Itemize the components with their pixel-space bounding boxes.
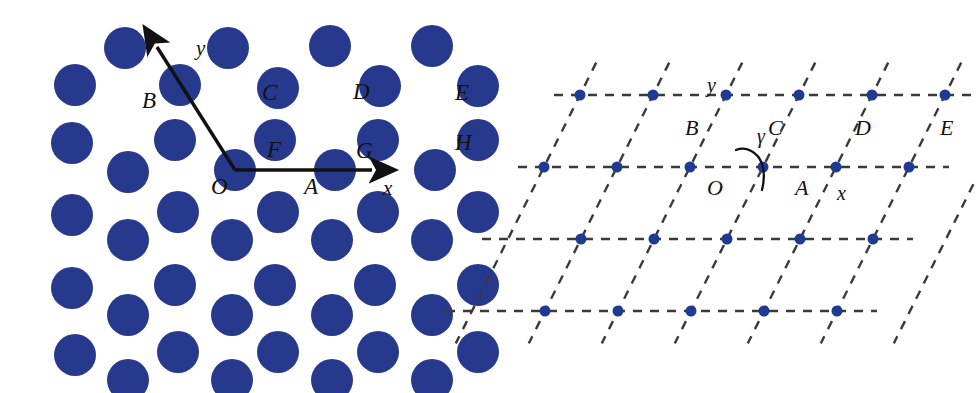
atom-circle — [107, 151, 149, 193]
atom-circle — [211, 294, 253, 336]
lattice-point — [868, 234, 879, 245]
lattice-line-oblique — [748, 63, 888, 344]
atom-circle — [157, 191, 199, 233]
left-label-e: E — [454, 80, 469, 105]
lattice-point — [576, 234, 587, 245]
atom-circle — [154, 119, 196, 161]
right-label-a: A — [793, 175, 809, 200]
atom-circle — [211, 219, 253, 261]
lattice-point — [612, 162, 623, 173]
lattice-point — [649, 234, 660, 245]
atom-circle — [51, 122, 93, 164]
left-label-f: F — [266, 137, 282, 162]
lattice-point — [867, 90, 878, 101]
atom-circle — [457, 191, 499, 233]
right-label-b: B — [685, 115, 698, 140]
atom-circle — [54, 334, 96, 376]
right-label-c: C — [768, 115, 783, 140]
lattice-point — [613, 306, 624, 317]
atom-circle — [311, 294, 353, 336]
atom-circle — [411, 359, 453, 393]
atom-circle — [211, 359, 253, 393]
right-panel-oblique-lattice: BCDEOAxyγ — [540, 0, 976, 393]
lattice-point — [795, 234, 806, 245]
atom-circle — [411, 25, 453, 67]
lattice-point — [648, 90, 659, 101]
left-label-g: G — [356, 138, 373, 163]
atom-circle — [414, 149, 456, 191]
atom-circle — [457, 331, 499, 373]
atom-circle — [154, 264, 196, 306]
lattice-point — [794, 90, 805, 101]
right-label-o: O — [707, 175, 723, 200]
left-panel-close-packed-plane: BCDEFGHOAxy — [0, 0, 540, 393]
lattice-point — [539, 162, 550, 173]
right-panel-svg: BCDEOAxyγ — [540, 0, 976, 393]
atom-circle — [254, 264, 296, 306]
atom-circle — [157, 331, 199, 373]
right-label-gamma: γ — [757, 125, 766, 148]
lattice-point — [540, 306, 551, 317]
right-label-d: D — [854, 115, 871, 140]
lattice-point — [721, 90, 732, 101]
lattice-point — [940, 90, 951, 101]
atom-circle — [357, 191, 399, 233]
atom-circle — [457, 264, 499, 306]
lattice-line-oblique — [529, 63, 669, 344]
lattice-point — [904, 162, 915, 173]
right-label-x: x — [836, 182, 846, 204]
atom-circle — [257, 191, 299, 233]
atom-circle — [357, 331, 399, 373]
atom-circle — [107, 359, 149, 393]
crystal-lattice-figure: BCDEFGHOAxy BCDEOAxyγ — [0, 0, 976, 393]
left-label-c: C — [262, 80, 278, 105]
lattice-point — [686, 306, 697, 317]
atom-circle — [311, 219, 353, 261]
left-label-x: x — [382, 176, 393, 200]
left-label-b: B — [142, 88, 156, 113]
lattice-point — [831, 162, 842, 173]
right-label-e: E — [939, 115, 954, 140]
left-label-y: y — [194, 36, 206, 60]
atom-circle — [309, 25, 351, 67]
atom-circle — [104, 27, 146, 69]
atom-circle — [51, 194, 93, 236]
atom-circle — [257, 331, 299, 373]
left-panel-svg: BCDEFGHOAxy — [0, 0, 540, 393]
lattice-point — [832, 306, 843, 317]
left-label-a: A — [302, 174, 319, 199]
right-label-y: y — [705, 74, 716, 97]
lattice-point — [722, 234, 733, 245]
lattice-line-oblique — [602, 63, 742, 344]
atom-circle — [54, 64, 96, 106]
atom-circle — [311, 359, 353, 393]
atom-circle — [411, 294, 453, 336]
lattice-line-oblique — [675, 63, 815, 344]
atom-circle — [354, 264, 396, 306]
lattice-point — [575, 90, 586, 101]
left-label-o: O — [211, 174, 228, 199]
left-label-d: D — [352, 79, 370, 104]
atom-circle — [107, 294, 149, 336]
atom-circle — [107, 219, 149, 261]
lattice-line-oblique — [894, 63, 976, 344]
lattice-point — [759, 306, 770, 317]
atom-circle — [51, 267, 93, 309]
left-label-h: H — [454, 130, 473, 155]
atom-circle — [207, 27, 249, 69]
atom-circle — [411, 219, 453, 261]
lattice-point — [685, 162, 696, 173]
